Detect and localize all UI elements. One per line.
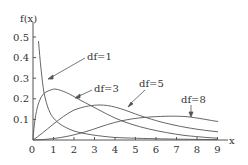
axes xyxy=(33,22,228,140)
x-tick-label: 0 xyxy=(29,144,35,155)
y-tick-label: 0.5 xyxy=(13,32,29,43)
x-axis-label: x xyxy=(229,135,235,146)
y-tick-label: 0.3 xyxy=(13,73,29,84)
x-tick-label: 5 xyxy=(132,144,138,155)
curve-df1 xyxy=(39,41,219,140)
arrowhead-df8 xyxy=(189,112,193,117)
x-tick-label: 9 xyxy=(214,144,220,155)
label-df5: df=5 xyxy=(139,78,164,89)
x-tick-label: 2 xyxy=(71,144,77,155)
arrowhead-df1 xyxy=(48,75,53,79)
arrowhead-df5 xyxy=(128,102,133,107)
y-axis-label: f(x) xyxy=(20,13,37,24)
label-df3: df=3 xyxy=(94,83,119,94)
chi-square-chart: f(x) x 0.1 0.2 0.3 0.4 0.5 0 1 2 3 4 5 6… xyxy=(0,0,248,165)
x-tick-label: 4 xyxy=(112,144,118,155)
y-tick-label: 0.2 xyxy=(13,93,29,104)
x-tick-label: 1 xyxy=(50,144,56,155)
x-tick-label: 6 xyxy=(153,144,159,155)
x-tick-label: 3 xyxy=(91,144,97,155)
arrowhead-df3 xyxy=(75,94,80,98)
label-df1: df=1 xyxy=(87,51,112,62)
label-df8: df=8 xyxy=(181,94,206,105)
x-tick-label: 8 xyxy=(194,144,200,155)
arrow-df1 xyxy=(50,58,85,78)
x-tick-label: 7 xyxy=(173,144,179,155)
y-tick-label: 0.1 xyxy=(13,114,29,125)
y-tick-label: 0.4 xyxy=(13,52,29,63)
